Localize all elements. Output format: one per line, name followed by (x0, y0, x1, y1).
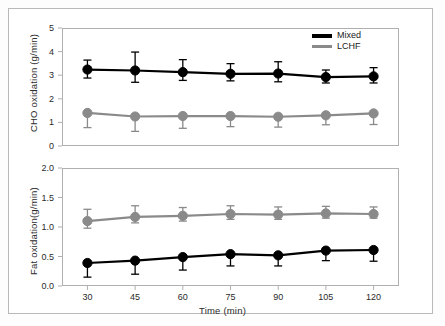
panel-fat-oxidation: 0.00.51.01.52.0 3045607590105120 Fat oxi… (0, 160, 445, 326)
y-tick-label: 2.0 (28, 164, 54, 173)
y-tick-label: 0.0 (28, 282, 54, 291)
x-tick-label: 45 (119, 293, 151, 302)
y-axis-label-lower: Fat oxidation(g/min) (28, 187, 39, 275)
legend-item: LCHF (312, 41, 392, 52)
x-tick-label: 90 (262, 293, 294, 302)
x-tick-label: 30 (71, 293, 103, 302)
x-tick-label: 75 (215, 293, 247, 302)
legend-item: Mixed (312, 30, 392, 41)
y-tick-label: 5 (28, 24, 54, 33)
figure-canvas: 012345 CHO oxidation (g/min) MixedLCHF 0… (0, 0, 445, 326)
x-axis-label: Time (min) (199, 305, 246, 316)
x-tick-label: 105 (310, 293, 342, 302)
legend-label: Mixed (337, 30, 361, 41)
x-tick-label: 60 (167, 293, 199, 302)
legend-swatch (312, 45, 332, 48)
y-tick-label: 0 (28, 142, 54, 151)
y-axis-label-upper: CHO oxidation (g/min) (28, 34, 39, 132)
x-tick-label: 120 (358, 293, 390, 302)
legend-swatch (312, 34, 332, 38)
legend: MixedLCHF (312, 30, 392, 56)
legend-label: LCHF (337, 41, 361, 52)
chart-svg-upper (0, 0, 445, 160)
panel-cho-oxidation: 012345 CHO oxidation (g/min) MixedLCHF (0, 0, 445, 160)
